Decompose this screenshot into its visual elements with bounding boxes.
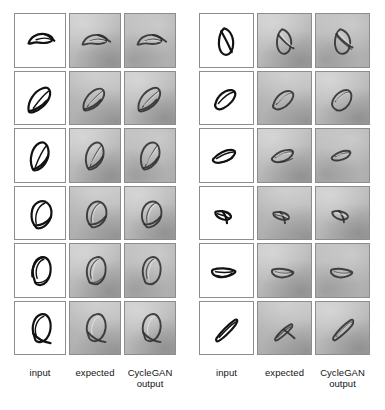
label-left-expected: expected bbox=[69, 367, 121, 389]
cell-right-r5-expected[interactable] bbox=[257, 243, 312, 298]
render-flat-loop bbox=[70, 14, 120, 67]
render-pointed-oval bbox=[258, 14, 311, 67]
cell-right-r6-input[interactable] bbox=[199, 301, 254, 356]
label-right-expected: expected bbox=[257, 367, 312, 389]
sketch-pointed-oval bbox=[200, 14, 253, 67]
cell-right-r3-expected[interactable] bbox=[257, 128, 312, 183]
cell-right-r6-output[interactable] bbox=[315, 301, 370, 356]
cell-right-r4-output[interactable] bbox=[315, 186, 370, 241]
render-pointed-oval bbox=[316, 14, 369, 67]
render-teardrop-loop bbox=[125, 72, 175, 125]
cell-right-r2-expected[interactable] bbox=[257, 71, 312, 126]
render-egg-loop bbox=[125, 187, 175, 240]
sketch-double-loop bbox=[15, 244, 65, 297]
cell-right-r3-input[interactable] bbox=[199, 128, 254, 183]
label-right-cyclegan-line1: CycleGAN bbox=[320, 367, 365, 378]
cell-left-r3-expected[interactable] bbox=[69, 128, 121, 183]
label-right-cyclegan-output: CycleGAN output bbox=[315, 367, 370, 389]
sketch-egg-loop bbox=[15, 187, 65, 240]
cell-left-r5-output[interactable] bbox=[124, 243, 176, 298]
cell-right-r6-expected[interactable] bbox=[257, 301, 312, 356]
render-tapered-oval bbox=[125, 129, 175, 182]
cell-left-r1-expected[interactable] bbox=[69, 13, 121, 68]
cell-right-r4-expected[interactable] bbox=[257, 186, 312, 241]
render-arrow-wedge bbox=[316, 187, 369, 240]
render-double-loop bbox=[70, 244, 120, 297]
cell-right-r4-input[interactable] bbox=[199, 186, 254, 241]
render-crescent-sliver bbox=[258, 244, 311, 297]
label-right-cyclegan-line2: output bbox=[329, 378, 356, 389]
cell-right-r5-output[interactable] bbox=[315, 243, 370, 298]
label-right-input: input bbox=[199, 367, 254, 389]
cell-left-r2-output[interactable] bbox=[124, 71, 176, 126]
cell-left-r1-output[interactable] bbox=[124, 13, 176, 68]
render-tapered-blade bbox=[316, 129, 369, 182]
cell-left-r3-input[interactable] bbox=[14, 128, 66, 183]
render-double-loop bbox=[125, 244, 175, 297]
image-grid-right bbox=[199, 13, 370, 355]
label-left-input: input bbox=[14, 367, 66, 389]
cell-right-r3-output[interactable] bbox=[315, 128, 370, 183]
render-flat-loop bbox=[125, 14, 175, 67]
render-arrow-wedge bbox=[258, 187, 311, 240]
cell-left-r6-input[interactable] bbox=[14, 301, 66, 356]
render-slanted-oval bbox=[316, 72, 369, 125]
cell-right-r1-output[interactable] bbox=[315, 13, 370, 68]
column-labels-right: input expected CycleGAN output bbox=[199, 367, 370, 389]
render-slanted-oval bbox=[258, 72, 311, 125]
sketch-tapered-oval bbox=[15, 129, 65, 182]
cell-left-r6-output[interactable] bbox=[124, 301, 176, 356]
cell-right-r2-output[interactable] bbox=[315, 71, 370, 126]
render-diagonal-loop bbox=[258, 302, 311, 355]
figure-root: input expected CycleGAN output input exp… bbox=[0, 0, 385, 410]
sketch-loop-crossbar bbox=[15, 302, 65, 355]
image-grid-left bbox=[14, 13, 176, 355]
cell-right-r1-expected[interactable] bbox=[257, 13, 312, 68]
cell-right-r1-input[interactable] bbox=[199, 13, 254, 68]
render-teardrop-loop bbox=[70, 72, 120, 125]
sketch-arrow-wedge bbox=[200, 187, 253, 240]
label-left-cyclegan-line2: output bbox=[137, 378, 164, 389]
cell-left-r4-output[interactable] bbox=[124, 186, 176, 241]
cell-left-r6-expected[interactable] bbox=[69, 301, 121, 356]
panel-right bbox=[199, 13, 370, 355]
cell-right-r5-input[interactable] bbox=[199, 243, 254, 298]
cell-left-r2-input[interactable] bbox=[14, 71, 66, 126]
cell-left-r5-expected[interactable] bbox=[69, 243, 121, 298]
render-crescent-sliver bbox=[316, 244, 369, 297]
render-egg-loop bbox=[70, 187, 120, 240]
cell-left-r5-input[interactable] bbox=[14, 243, 66, 298]
cell-right-r2-input[interactable] bbox=[199, 71, 254, 126]
sketch-tapered-blade bbox=[200, 129, 253, 182]
column-labels-left: input expected CycleGAN output bbox=[14, 367, 176, 389]
cell-left-r1-input[interactable] bbox=[14, 13, 66, 68]
render-diagonal-loop bbox=[316, 302, 369, 355]
render-loop-crossbar bbox=[70, 302, 120, 355]
cell-left-r4-input[interactable] bbox=[14, 186, 66, 241]
sketch-diagonal-loop bbox=[200, 302, 253, 355]
label-left-cyclegan-line1: CycleGAN bbox=[128, 367, 173, 378]
render-loop-crossbar bbox=[125, 302, 175, 355]
render-tapered-blade bbox=[258, 129, 311, 182]
cell-left-r4-expected[interactable] bbox=[69, 186, 121, 241]
label-left-cyclegan-output: CycleGAN output bbox=[124, 367, 176, 389]
sketch-teardrop-loop bbox=[15, 72, 65, 125]
render-tapered-oval bbox=[70, 129, 120, 182]
sketch-slanted-oval bbox=[200, 72, 253, 125]
sketch-crescent-sliver bbox=[200, 244, 253, 297]
cell-left-r3-output[interactable] bbox=[124, 128, 176, 183]
cell-left-r2-expected[interactable] bbox=[69, 71, 121, 126]
sketch-flat-loop bbox=[15, 14, 65, 67]
panel-left bbox=[14, 13, 176, 355]
